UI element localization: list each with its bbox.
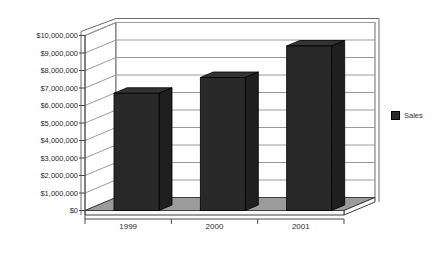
y-axis-label: $3,000,000 bbox=[40, 154, 78, 163]
chart-screen: $0$1,000,000$2,000,000$3,000,000$4,000,0… bbox=[0, 0, 448, 253]
bar-1999 bbox=[114, 93, 159, 210]
bar-2000 bbox=[200, 78, 245, 211]
y-axis-label: $2,000,000 bbox=[40, 171, 78, 180]
y-axis-label: $7,000,000 bbox=[40, 84, 78, 93]
legend-label-sales: Sales bbox=[404, 112, 423, 120]
bar-side-2001 bbox=[332, 41, 345, 211]
bar-side-2000 bbox=[245, 72, 258, 211]
floor-front-rim bbox=[85, 211, 344, 216]
x-axis-label-1999: 1999 bbox=[119, 222, 137, 231]
y-axis-label: $0 bbox=[70, 206, 78, 215]
chart-legend: Sales bbox=[391, 111, 423, 120]
sales-3d-bar-chart: $0$1,000,000$2,000,000$3,000,000$4,000,0… bbox=[0, 0, 448, 253]
x-axis-label-2000: 2000 bbox=[206, 222, 224, 231]
y-axis-label: $9,000,000 bbox=[40, 49, 78, 58]
y-axis-label: $1,000,000 bbox=[40, 189, 78, 198]
y-axis-label: $5,000,000 bbox=[40, 119, 78, 128]
y-axis-label: $8,000,000 bbox=[40, 66, 78, 75]
x-axis-label-2001: 2001 bbox=[292, 222, 310, 231]
bar-side-1999 bbox=[159, 88, 172, 211]
legend-swatch-sales bbox=[391, 111, 400, 120]
y-axis-label: $10,000,000 bbox=[36, 31, 78, 40]
y-axis-label: $6,000,000 bbox=[40, 101, 78, 110]
y-axis-label: $4,000,000 bbox=[40, 136, 78, 145]
bar-2001 bbox=[287, 46, 332, 211]
